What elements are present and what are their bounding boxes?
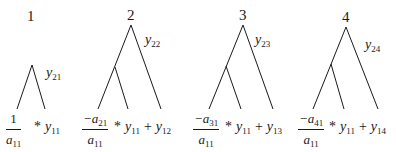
- tree-2-branch-label: y22: [145, 33, 160, 49]
- tree-1-edges: [17, 65, 45, 109]
- tree-4-branch-label: y24: [365, 38, 380, 54]
- tree-2-expression: *y11+y12: [110, 119, 171, 136]
- tree-3-branch-label: y23: [255, 33, 270, 49]
- tree-4-fraction: −a41 a11: [298, 111, 324, 149]
- tree-1-fraction: 1 a11: [6, 111, 21, 149]
- tree-3-expression: *y11+y13: [221, 119, 282, 136]
- tree-2-fraction: −a21 a11: [82, 111, 108, 149]
- tree-4-expression: *y11+y14: [325, 119, 386, 136]
- tree-2-number: 2: [127, 8, 135, 23]
- tree-4-number: 4: [342, 10, 350, 25]
- tree-3-fraction: −a31 a11: [193, 111, 219, 149]
- tree-1-number: 1: [27, 9, 35, 24]
- tree-3-number: 3: [239, 8, 247, 23]
- tree-1-branch-label: y21: [46, 66, 61, 82]
- tree-1-expression: *y11: [30, 119, 60, 136]
